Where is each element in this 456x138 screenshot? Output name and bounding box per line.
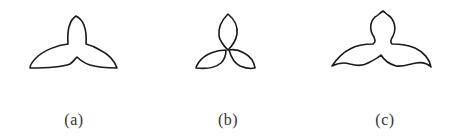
panel-c-label: (c)	[365, 111, 405, 129]
shape-a-icon	[30, 16, 117, 68]
panel-b-label: (b)	[208, 111, 248, 129]
shape-b-icon	[196, 14, 255, 68]
panel-a-label: (a)	[54, 111, 94, 129]
shape-c-icon	[332, 11, 431, 67]
figure: (a) (b) (c)	[0, 0, 456, 138]
